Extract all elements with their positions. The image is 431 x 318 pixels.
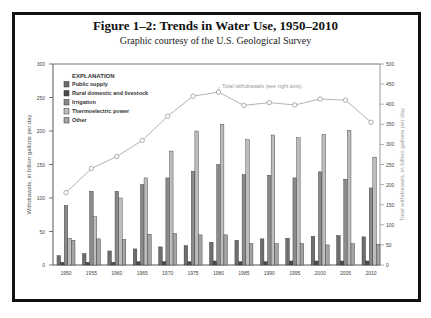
bar-irrigation xyxy=(344,179,348,265)
legend-swatch xyxy=(64,118,69,124)
bar-thermoelectric-power xyxy=(322,134,326,265)
x-tick-label: 1990 xyxy=(264,270,275,276)
bar-rural-domestic-and-livestock xyxy=(289,261,293,265)
right-axis-title: Total withdrawals, in billion gallons pe… xyxy=(399,108,405,221)
bar-public-supply xyxy=(260,239,264,265)
bar-rural-domestic-and-livestock xyxy=(264,262,268,265)
bar-irrigation xyxy=(242,175,246,265)
total-point-marker xyxy=(242,103,246,107)
bar-other xyxy=(300,244,304,265)
x-tick-label: 1980 xyxy=(213,270,224,276)
right-tick-label: 500 xyxy=(386,61,395,67)
x-tick-label: 1955 xyxy=(86,270,97,276)
left-tick-label: 50 xyxy=(39,229,45,235)
bar-thermoelectric-power xyxy=(93,217,97,265)
bar-other xyxy=(326,245,330,265)
legend: EXPLANATIONPublic supplyRural domestic a… xyxy=(64,73,149,123)
total-point-marker xyxy=(343,98,347,102)
bar-public-supply xyxy=(286,238,290,265)
bar-thermoelectric-power xyxy=(271,135,275,265)
bar-rural-domestic-and-livestock xyxy=(137,262,141,265)
left-tick-label: 300 xyxy=(37,61,46,67)
total-point-marker xyxy=(267,100,271,104)
bar-irrigation xyxy=(191,171,195,265)
right-tick-label: 450 xyxy=(386,81,395,87)
x-tick-label: 1970 xyxy=(162,270,173,276)
bar-thermoelectric-power xyxy=(347,130,351,265)
left-tick-label: 0 xyxy=(42,262,45,268)
total-point-marker xyxy=(191,94,195,98)
bar-irrigation xyxy=(217,165,221,266)
left-tick-label: 100 xyxy=(37,195,46,201)
total-point-marker xyxy=(115,154,119,158)
right-tick-label: 200 xyxy=(386,182,395,188)
bar-thermoelectric-power xyxy=(169,151,173,265)
bar-thermoelectric-power xyxy=(220,124,224,265)
right-tick-label: 300 xyxy=(386,141,395,147)
bar-thermoelectric-power xyxy=(119,198,123,265)
total-point-marker xyxy=(293,103,297,107)
bar-public-supply xyxy=(133,249,137,265)
right-tick-label: 100 xyxy=(386,222,395,228)
x-tick-label: 2005 xyxy=(340,270,351,276)
bar-rural-domestic-and-livestock xyxy=(366,261,370,265)
bar-irrigation xyxy=(318,172,322,265)
legend-item-label: Thermoelectric power xyxy=(72,108,130,114)
bar-irrigation xyxy=(64,205,68,265)
x-tick-label: 1960 xyxy=(111,270,122,276)
total-withdrawals-annotation: Total withdrawals (see right axis) xyxy=(222,83,302,89)
bar-public-supply xyxy=(108,251,112,265)
left-tick-label: 200 xyxy=(37,128,46,134)
bar-irrigation xyxy=(369,188,373,265)
total-point-marker xyxy=(165,114,169,118)
bar-public-supply xyxy=(210,242,214,265)
left-tick-label: 150 xyxy=(37,162,46,168)
bar-irrigation xyxy=(140,185,144,265)
bar-rural-domestic-and-livestock xyxy=(340,261,344,265)
legend-title: EXPLANATION xyxy=(72,73,115,79)
bar-irrigation xyxy=(90,191,94,265)
bar-other xyxy=(249,244,253,265)
legend-item-label: Other xyxy=(72,117,88,123)
total-point-marker xyxy=(216,90,220,94)
x-tick-label: 1975 xyxy=(188,270,199,276)
bar-thermoelectric-power xyxy=(373,157,377,265)
right-tick-label: 50 xyxy=(386,242,392,248)
bar-other xyxy=(97,239,101,265)
bar-thermoelectric-power xyxy=(68,238,72,265)
right-tick-label: 400 xyxy=(386,101,395,107)
left-tick-label: 250 xyxy=(37,95,46,101)
x-tick-label: 2010 xyxy=(365,270,376,276)
bar-other xyxy=(198,235,202,265)
bar-thermoelectric-power xyxy=(297,138,301,265)
right-tick-label: 0 xyxy=(386,262,389,268)
bar-other xyxy=(275,244,279,265)
x-tick-label: 1995 xyxy=(289,270,300,276)
bar-other xyxy=(376,244,380,265)
bar-public-supply xyxy=(337,236,341,265)
bar-rural-domestic-and-livestock xyxy=(86,262,90,265)
bar-other xyxy=(148,234,152,265)
water-use-chart: 0501001502002503000501001502002503003504… xyxy=(0,0,431,318)
left-axis-title: Withdrawals, in billion gallons per day xyxy=(26,114,32,214)
total-point-marker xyxy=(369,120,373,124)
legend-swatch xyxy=(64,109,69,115)
bar-public-supply xyxy=(159,247,163,265)
bar-rural-domestic-and-livestock xyxy=(188,262,192,265)
bar-rural-domestic-and-livestock xyxy=(111,262,115,265)
bar-rural-domestic-and-livestock xyxy=(61,262,65,265)
legend-swatch xyxy=(64,100,69,106)
bar-other xyxy=(122,240,126,265)
bar-rural-domestic-and-livestock xyxy=(162,262,166,265)
bar-rural-domestic-and-livestock xyxy=(239,262,243,265)
bar-public-supply xyxy=(57,256,61,265)
bar-rural-domestic-and-livestock xyxy=(213,261,217,265)
bar-other xyxy=(224,235,228,265)
bar-public-supply xyxy=(184,246,188,265)
legend-item-label: Irrigation xyxy=(72,99,96,105)
legend-swatch xyxy=(64,91,69,97)
bar-thermoelectric-power xyxy=(195,131,199,265)
bar-irrigation xyxy=(166,178,170,265)
bar-other xyxy=(351,244,355,265)
legend-swatch xyxy=(64,82,69,88)
